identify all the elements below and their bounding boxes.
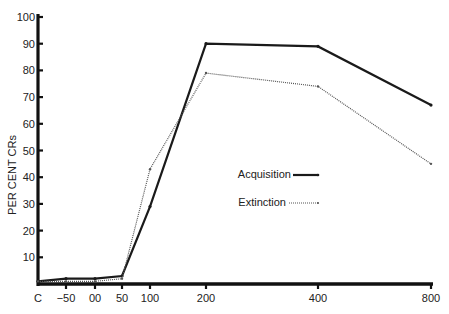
y-tick-label: 90 (23, 38, 35, 50)
x-tick-label: 400 (309, 292, 327, 304)
y-tick-label: 20 (23, 225, 35, 237)
data-point-extinction (121, 277, 123, 279)
data-point-extinction (149, 168, 151, 170)
y-tick-label: 80 (23, 64, 35, 76)
y-axis-title: PER CENT CRs (6, 135, 18, 215)
y-tick-label: 100 (17, 11, 35, 23)
legend-label-acquisition: Acquisition (238, 168, 291, 180)
data-point-extinction (65, 280, 67, 282)
data-point-acquisition (93, 277, 96, 280)
y-tick-label: 10 (23, 251, 35, 263)
x-tick-label: C (34, 292, 42, 304)
x-tick-label: 100 (141, 292, 159, 304)
x-tick-label: −50 (57, 292, 76, 304)
y-tick-label: 30 (23, 198, 35, 210)
series-line-acquisition (38, 44, 431, 282)
data-point-extinction (205, 72, 207, 74)
data-point-acquisition (429, 104, 432, 107)
y-tick-label: 70 (23, 91, 35, 103)
y-axis: 102030405060708090100 (17, 11, 43, 286)
data-point-extinction (94, 280, 96, 282)
data-point-acquisition (148, 205, 151, 208)
data-point-acquisition (64, 277, 67, 280)
data-point-extinction (430, 163, 432, 165)
line-chart: 102030405060708090100 C−5000501002004008… (0, 0, 449, 314)
legend: Acquisition Extinction (238, 168, 320, 208)
legend-marker-acquisition (317, 174, 320, 177)
x-axis: C−500050100200400800 (34, 284, 440, 304)
x-tick-label: 50 (116, 292, 128, 304)
legend-label-extinction: Extinction (238, 196, 286, 208)
x-tick-label: 800 (422, 292, 440, 304)
y-tick-label: 60 (23, 118, 35, 130)
x-tick-label: 00 (89, 292, 101, 304)
series-line-extinction (38, 73, 431, 281)
data-point-acquisition (204, 42, 207, 45)
data-point-extinction (317, 85, 319, 87)
legend-marker-extinction (317, 202, 319, 204)
y-tick-label: 50 (23, 145, 35, 157)
data-point-acquisition (316, 45, 319, 48)
x-tick-label: 200 (197, 292, 215, 304)
data-point-extinction (37, 280, 39, 282)
series-layer (36, 42, 432, 283)
y-tick-label: 40 (23, 171, 35, 183)
